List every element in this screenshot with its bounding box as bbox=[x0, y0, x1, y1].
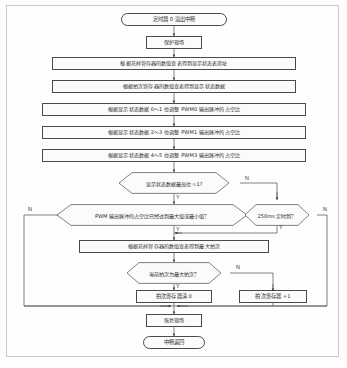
edge-label-timer-yes: Y bbox=[279, 224, 283, 230]
node-start-label: 定时器 0 溢出中断 bbox=[153, 17, 195, 23]
edge-label-duty-no: N bbox=[28, 206, 32, 212]
node-250ms-label: 250ms 定时到？ bbox=[258, 212, 297, 219]
edge-label-timer-no: N bbox=[323, 206, 327, 212]
node-inc-beat-label: 拍次寄存器 +1 bbox=[255, 294, 290, 299]
node-decision-msb-is-one: 显示状态数据最高位 =1? bbox=[108, 172, 240, 194]
node-lookup-state-table-address: 根据花样寄存器的数值查表得到显示状态表首址 bbox=[52, 57, 296, 70]
node-lookup-max-beat: 根据花样寄存器的数值查表得到最大拍次 bbox=[79, 240, 269, 253]
node-pwm3-label: 根据显示状态数据 4～5 位调整 PWM3 输出脉冲的占空比 bbox=[108, 153, 240, 158]
node-set-pwm0-duty: 根据显示状态数据 0～1 位调整 PWM0 输出脉冲的占空比 bbox=[42, 103, 306, 116]
node-is-max-label: 当前拍次为最大拍次？ bbox=[149, 270, 199, 277]
node-decision-duty-limit-reached: PWM 输出脉冲的占空比已经达到最大值或最小值？ bbox=[46, 204, 258, 226]
edge-label-ismax-no: N bbox=[236, 264, 240, 270]
node-restore-label: 恢复现场 bbox=[164, 318, 184, 323]
node-restore-context: 恢复现场 bbox=[146, 314, 202, 327]
node-pwm0-label: 根据显示状态数据 0～1 位调整 PWM0 输出脉冲的占空比 bbox=[108, 107, 240, 112]
edge-label-duty-yes: Y bbox=[176, 226, 180, 232]
node-decision-current-beat-is-max: 当前拍次为最大拍次？ bbox=[118, 262, 230, 284]
node-set-pwm1-duty: 根据显示状态数据 2～3 位调整 PWM1 输出脉冲的占空比 bbox=[42, 126, 306, 139]
node-return-label: 中断返回 bbox=[164, 340, 184, 346]
node-return-terminal: 中断返回 bbox=[143, 336, 205, 349]
node-set-pwm3-duty: 根据显示状态数据 4～5 位调整 PWM3 输出脉冲的占空比 bbox=[42, 149, 306, 162]
node-decision-250ms-timeout: 250ms 定时到？ bbox=[237, 204, 317, 226]
node-lookup-state-data: 根据拍次寄存器的数值查表得到显示状态数据 bbox=[52, 80, 296, 93]
edge-label-msb-no: N bbox=[245, 175, 249, 181]
node-duty-limit-label: PWM 输出脉冲的占空比已经达到最大值或最小值？ bbox=[95, 212, 209, 219]
node-max-beat-label: 根据花样寄存器的数值查表得到最大拍次 bbox=[128, 244, 220, 249]
node-lookup-data-label: 根据拍次寄存器的数值查表得到显示状态数据 bbox=[123, 84, 225, 89]
edge-label-msb-yes: Y bbox=[176, 194, 180, 200]
node-clear-beat-label: 拍次寄存器清 0 bbox=[156, 294, 192, 299]
node-start-terminal: 定时器 0 溢出中断 bbox=[121, 13, 227, 26]
flowchart-page: 定时器 0 溢出中断 保护现场 根据花样寄存器的数值查表得到显示状态表首址 根据… bbox=[0, 0, 347, 368]
node-clear-beat-register: 拍次寄存器清 0 bbox=[136, 290, 212, 303]
node-save-context: 保护现场 bbox=[146, 36, 202, 49]
node-save-label: 保护现场 bbox=[164, 40, 184, 45]
node-increment-beat-register: 拍次寄存器 +1 bbox=[239, 290, 307, 303]
node-lookup-addr-label: 根据花样寄存器的数值查表得到显示状态表首址 bbox=[120, 61, 227, 66]
edge-label-ismax-yes: Y bbox=[176, 283, 180, 289]
node-msb-label: 显示状态数据最高位 =1? bbox=[146, 180, 203, 187]
node-pwm1-label: 根据显示状态数据 2～3 位调整 PWM1 输出脉冲的占空比 bbox=[108, 130, 240, 135]
